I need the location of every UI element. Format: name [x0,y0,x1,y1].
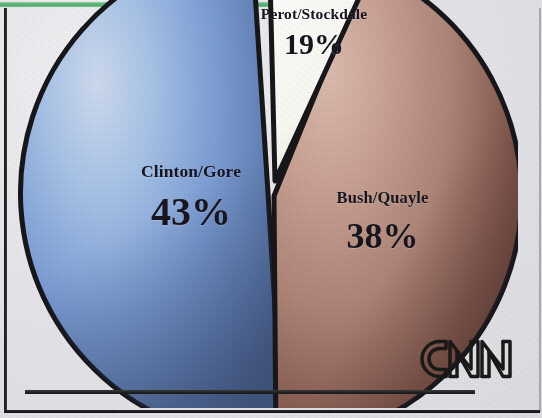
pie-label-perot-stockdale-value: 19% [214,29,414,59]
frame-border-right [539,8,541,412]
pie-label-perot-stockdale: Perot/Stockdale 19% [214,6,414,59]
cnn-election-graphic: Clinton/Gore 43% Bush/Quayle 38% Perot/S… [0,0,542,418]
pie-label-bush-quayle-name: Bush/Quayle [300,190,465,207]
cnn-logo-icon [411,337,519,381]
pie-label-clinton-gore: Clinton/Gore 43% [96,163,286,232]
frame-border-left [4,8,7,412]
pie-label-bush-quayle-value: 38% [300,218,465,254]
pie-label-perot-stockdale-name: Perot/Stockdale [214,6,414,22]
footer-rule [25,390,475,394]
frame-border-bottom [4,410,540,413]
pie-label-clinton-gore-value: 43% [96,192,286,232]
pie-label-bush-quayle: Bush/Quayle 38% [300,190,465,254]
pie-label-clinton-gore-name: Clinton/Gore [96,163,286,181]
